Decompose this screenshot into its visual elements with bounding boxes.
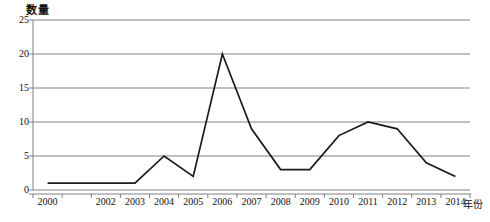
- x-axis-tick-label: 2007: [242, 196, 262, 207]
- x-axis-tick-label: 2005: [183, 196, 203, 207]
- x-axis-tick-label: 2012: [387, 196, 407, 207]
- x-axis-tick-label: 2008: [271, 196, 291, 207]
- x-axis-tick-label: 2002: [96, 196, 116, 207]
- x-axis-tick-label: 2006: [212, 196, 232, 207]
- line-chart: 数量 年份 0510152025 20002002200320042005200…: [0, 0, 490, 222]
- x-axis-tick-label: 2011: [358, 196, 378, 207]
- x-axis-tick-label: 2013: [416, 196, 436, 207]
- plot-area: [33, 20, 470, 190]
- x-axis-tick-label: 2010: [329, 196, 349, 207]
- x-axis-tick-label: 2009: [300, 196, 320, 207]
- series-polyline: [48, 54, 456, 183]
- x-axis-tick-label: 2014: [445, 196, 465, 207]
- x-axis-tick-label: 2003: [125, 196, 145, 207]
- x-axis-tick-label: 2000: [38, 196, 58, 207]
- x-axis-tick-label: 2004: [154, 196, 174, 207]
- data-series-line: [33, 20, 470, 190]
